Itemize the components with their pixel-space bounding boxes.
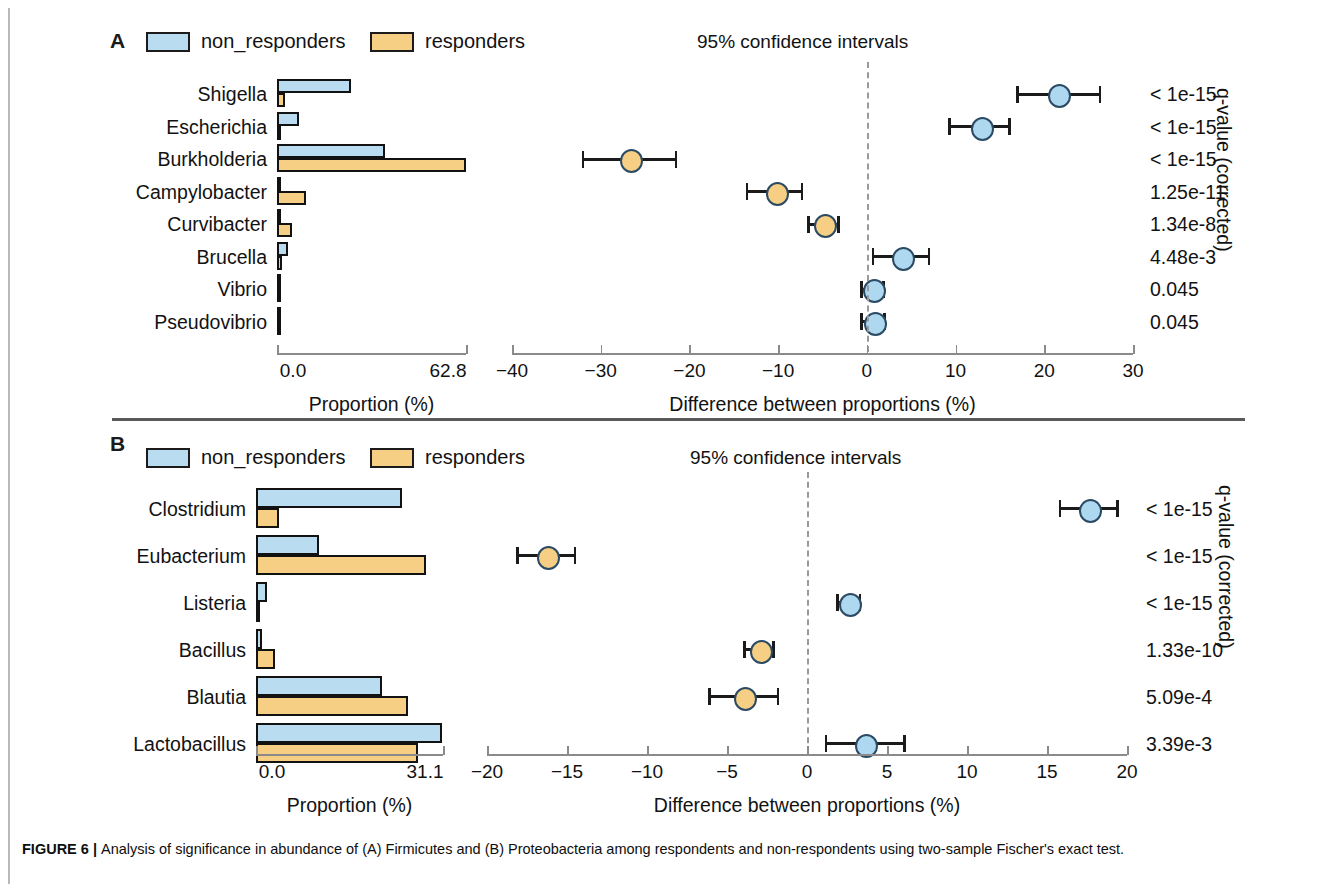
taxon-label: Campylobacter <box>136 180 267 203</box>
bar-responders <box>256 602 260 622</box>
difference-axis-tick <box>1047 746 1049 755</box>
ci-cap <box>743 641 746 658</box>
bar-non-responders <box>256 676 382 696</box>
taxon-label: Bacillus <box>179 638 246 661</box>
difference-axis-tick <box>512 345 514 354</box>
panel-a-plot: Shigella< 1e-15Escherichia< 1e-15Burkhol… <box>0 0 1337 420</box>
q-value: < 1e-15 <box>1150 148 1217 171</box>
ci-point-marker <box>892 247 915 271</box>
difference-axis-tick <box>956 345 958 354</box>
bar-non-responders <box>277 144 385 158</box>
bar-responders <box>277 288 281 302</box>
difference-axis-tick <box>1133 345 1135 354</box>
q-value: 5.09e-4 <box>1146 685 1212 708</box>
bar-responders <box>277 191 306 205</box>
difference-tick-label: −30 <box>585 360 617 382</box>
ci-cap <box>1016 86 1019 103</box>
difference-axis-tick <box>487 746 489 755</box>
ci-cap <box>1008 118 1011 135</box>
difference-tick-label: −10 <box>762 360 794 382</box>
bar-responders <box>256 555 426 575</box>
bar-responders <box>277 158 466 172</box>
ci-cap <box>746 183 749 200</box>
figure-page: A non_responders responders 95% confiden… <box>0 0 1337 892</box>
ci-cap <box>807 216 810 233</box>
ci-cap <box>675 151 678 168</box>
q-value: 0.045 <box>1150 278 1199 301</box>
taxon-label: Escherichia <box>166 115 267 138</box>
taxon-label: Burkholderia <box>158 148 267 171</box>
bar-non-responders <box>256 535 319 555</box>
difference-axis-line <box>512 353 1133 355</box>
zero-reference-line <box>807 472 809 753</box>
bar-non-responders <box>277 274 281 288</box>
q-value-axis-title: q-value (corrected) <box>1214 485 1237 649</box>
difference-tick-label: 0 <box>802 761 813 783</box>
bar-non-responders <box>256 488 402 508</box>
difference-tick-label: −5 <box>716 761 738 783</box>
difference-axis-tick <box>689 345 691 354</box>
difference-tick-label: −15 <box>551 761 583 783</box>
ci-cap <box>825 735 828 752</box>
ci-cap <box>948 118 951 135</box>
difference-tick-label: −20 <box>471 761 503 783</box>
proportion-tick-label: 0.0 <box>259 761 285 783</box>
taxon-label: Pseudovibrio <box>154 310 267 333</box>
bar-responders <box>277 126 281 140</box>
bar-responders <box>277 256 282 270</box>
proportion-tick-label: 31.1 <box>407 761 444 783</box>
ci-cap <box>574 547 577 564</box>
ci-point-marker <box>537 546 560 570</box>
ci-cap <box>582 151 585 168</box>
difference-axis-tick <box>1044 345 1046 354</box>
taxon-label: Blautia <box>186 685 246 708</box>
panel-b-plot: Clostridium< 1e-15Eubacterium< 1e-15List… <box>0 410 1337 820</box>
ci-cap <box>837 216 840 233</box>
proportion-axis-tick <box>466 345 468 354</box>
ci-cap <box>903 735 906 752</box>
difference-axis-tick <box>967 746 969 755</box>
proportion-axis-title: Proportion (%) <box>287 794 413 817</box>
difference-axis-tick <box>601 345 603 354</box>
bar-non-responders <box>277 242 288 256</box>
difference-axis-tick <box>807 746 809 755</box>
taxon-label: Vibrio <box>217 278 267 301</box>
difference-tick-label: −10 <box>631 761 663 783</box>
bar-non-responders <box>256 582 267 602</box>
difference-tick-label: 20 <box>1116 761 1137 783</box>
difference-tick-label: 20 <box>1034 360 1055 382</box>
ci-cap <box>801 183 804 200</box>
proportion-axis-tick <box>256 746 258 755</box>
difference-tick-label: 10 <box>945 360 966 382</box>
ci-cap <box>516 547 519 564</box>
taxon-label: Eubacterium <box>137 544 246 567</box>
ci-cap <box>1116 500 1119 517</box>
q-value: < 1e-15 <box>1146 591 1213 614</box>
figure-caption: FIGURE 6 | Analysis of significance in a… <box>22 838 1252 860</box>
proportion-tick-label: 0.0 <box>280 360 306 382</box>
ci-cap <box>860 313 863 330</box>
difference-axis-tick <box>887 746 889 755</box>
difference-axis-tick <box>727 746 729 755</box>
q-value: 4.48e-3 <box>1150 245 1216 268</box>
q-value: < 1e-15 <box>1150 115 1217 138</box>
ci-cap <box>1059 500 1062 517</box>
ci-point-marker <box>839 593 862 617</box>
panel-b: B non_responders responders 95% confiden… <box>0 410 1337 820</box>
bar-responders <box>256 508 279 528</box>
ci-cap <box>928 248 931 265</box>
proportion-axis-line <box>256 754 443 756</box>
bar-responders <box>277 93 285 107</box>
bar-responders <box>256 743 418 763</box>
proportion-axis-tick <box>443 746 445 755</box>
q-value: < 1e-15 <box>1150 83 1217 106</box>
ci-point-marker <box>971 117 994 141</box>
difference-tick-label: −40 <box>496 360 528 382</box>
bar-non-responders <box>256 629 262 649</box>
bar-responders <box>277 223 292 237</box>
taxon-label: Clostridium <box>148 497 246 520</box>
taxon-label: Brucella <box>197 245 267 268</box>
difference-axis-tick <box>1127 746 1129 755</box>
difference-axis-tick <box>867 345 869 354</box>
ci-point-marker <box>814 214 837 238</box>
